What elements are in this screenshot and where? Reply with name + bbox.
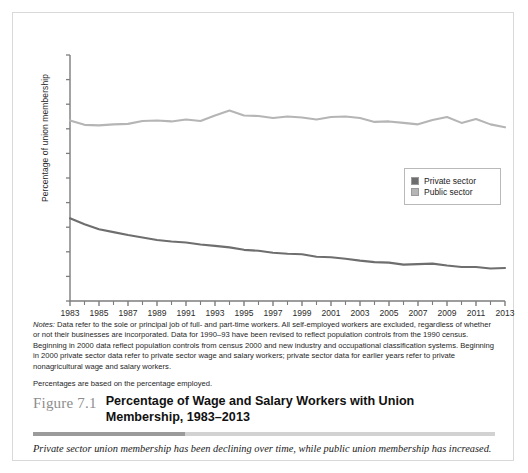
line-plot	[13, 13, 513, 313]
legend-item-public: Public sector	[411, 187, 494, 197]
chart-area: Percentage of union membership 0%5%10%15…	[13, 13, 513, 313]
figure-number: Figure 7.1	[33, 394, 97, 412]
notes-lead-label: Notes:	[33, 320, 55, 329]
minor-tick-marks	[70, 301, 505, 306]
figure-panel: Percentage of union membership 0%5%10%15…	[12, 12, 514, 461]
legend-label-public: Public sector	[424, 187, 473, 197]
legend-label-private: Private sector	[424, 176, 476, 186]
notes-body-1: Data refer to the sole or principal job …	[33, 320, 494, 371]
caption-rule	[33, 432, 495, 436]
notes-paragraph-1: Notes: Data refer to the sole or princip…	[33, 320, 495, 372]
legend-swatch-public	[411, 188, 419, 196]
legend-swatch-private	[411, 177, 419, 185]
figure-caption-block: Figure 7.1 Percentage of Wage and Salary…	[13, 394, 513, 455]
caption-heading-row: Figure 7.1 Percentage of Wage and Salary…	[13, 394, 513, 425]
notes-paragraph-2: Percentages are based on the percentage …	[33, 379, 495, 389]
figure-subcaption: Private sector union membership has been…	[33, 442, 495, 455]
chart-legend: Private sector Public sector	[404, 168, 501, 205]
legend-item-private: Private sector	[411, 176, 494, 186]
figure-title: Percentage of Wage and Salary Workers wi…	[106, 394, 495, 425]
figure-notes: Notes: Data refer to the sole or princip…	[33, 320, 495, 396]
caption-rule-accent	[33, 432, 185, 436]
